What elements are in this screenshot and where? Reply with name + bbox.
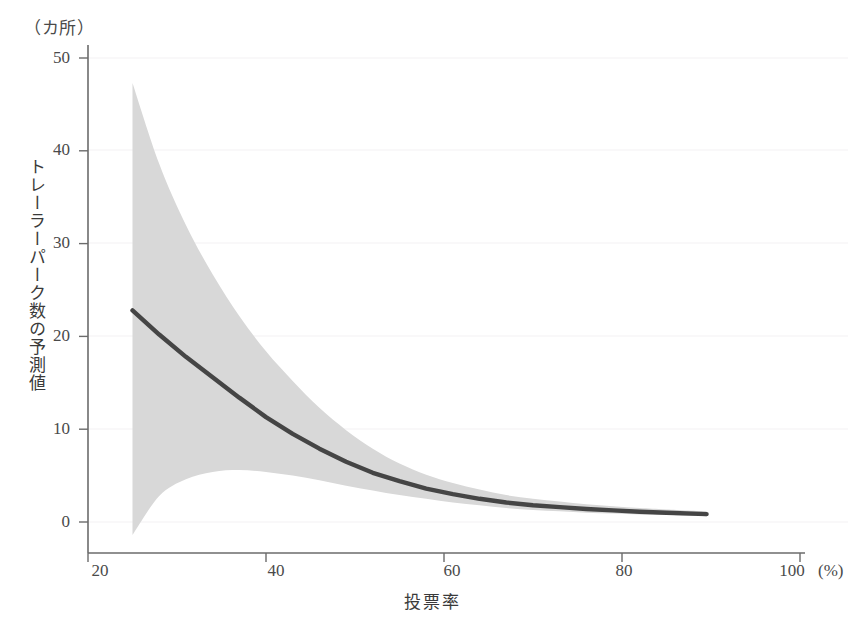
plot-canvas [0,0,865,626]
chart-figure: （カ所） トレーラーパーク数の予測値 50 40 30 20 10 0 20 4… [0,0,865,626]
x-axis-ticks [88,553,800,562]
confidence-band [133,83,707,535]
y-axis-ticks [79,58,88,522]
